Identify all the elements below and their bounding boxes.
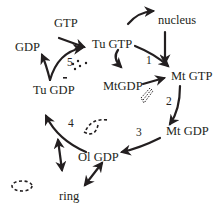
node-gtp: GTP [54, 17, 78, 30]
step-label-5: 5 [67, 57, 73, 69]
node-tu-gtp: Tu GTP [92, 38, 132, 51]
arrow-tugtp-to-mtgdp [116, 50, 121, 67]
dot-fragment-icon [77, 60, 79, 62]
step-label-4: 4 [68, 118, 74, 130]
arrow-step3 [122, 138, 160, 152]
step-label-3: 3 [136, 127, 142, 139]
dot-fragment-icon [85, 62, 87, 64]
node-gdp: GDP [15, 41, 40, 54]
node-nucleus: nucleus [158, 14, 196, 27]
arrow-tugdp-olgdp-bidirectional [58, 140, 62, 170]
arrow-mtgdp-to-mtgtp [143, 78, 164, 84]
node-ring: ring [59, 190, 79, 203]
tubulin-cycle-diagram [0, 0, 223, 212]
dash-fragment-icon [63, 77, 67, 79]
node-tu-gdp: Tu GDP [33, 84, 75, 97]
step-label-2: 2 [166, 96, 172, 108]
arrow-step4 [46, 116, 86, 152]
node-mtgdp: MtGDP [103, 80, 143, 93]
node-ol-gdp: Ol GDP [78, 151, 119, 164]
arrow-olgdp-ring-bidirectional [85, 163, 102, 185]
oligomer-ring-icon [12, 181, 32, 191]
oligomer-curl-icon [84, 120, 108, 134]
node-mt-gtp: Mt GTP [171, 70, 212, 83]
arrow-gtp-to-tugtp [59, 38, 84, 47]
arrow-tugdp-to-gdp [42, 55, 50, 80]
arrow-step5 [50, 48, 82, 80]
step-label-1: 1 [146, 55, 152, 67]
arrow-tugtp-to-nucleus [128, 11, 153, 24]
dot-fragment-icon [79, 65, 81, 67]
node-mt-gdp: Mt GDP [166, 125, 209, 138]
dot-fragment-icon [74, 68, 76, 70]
